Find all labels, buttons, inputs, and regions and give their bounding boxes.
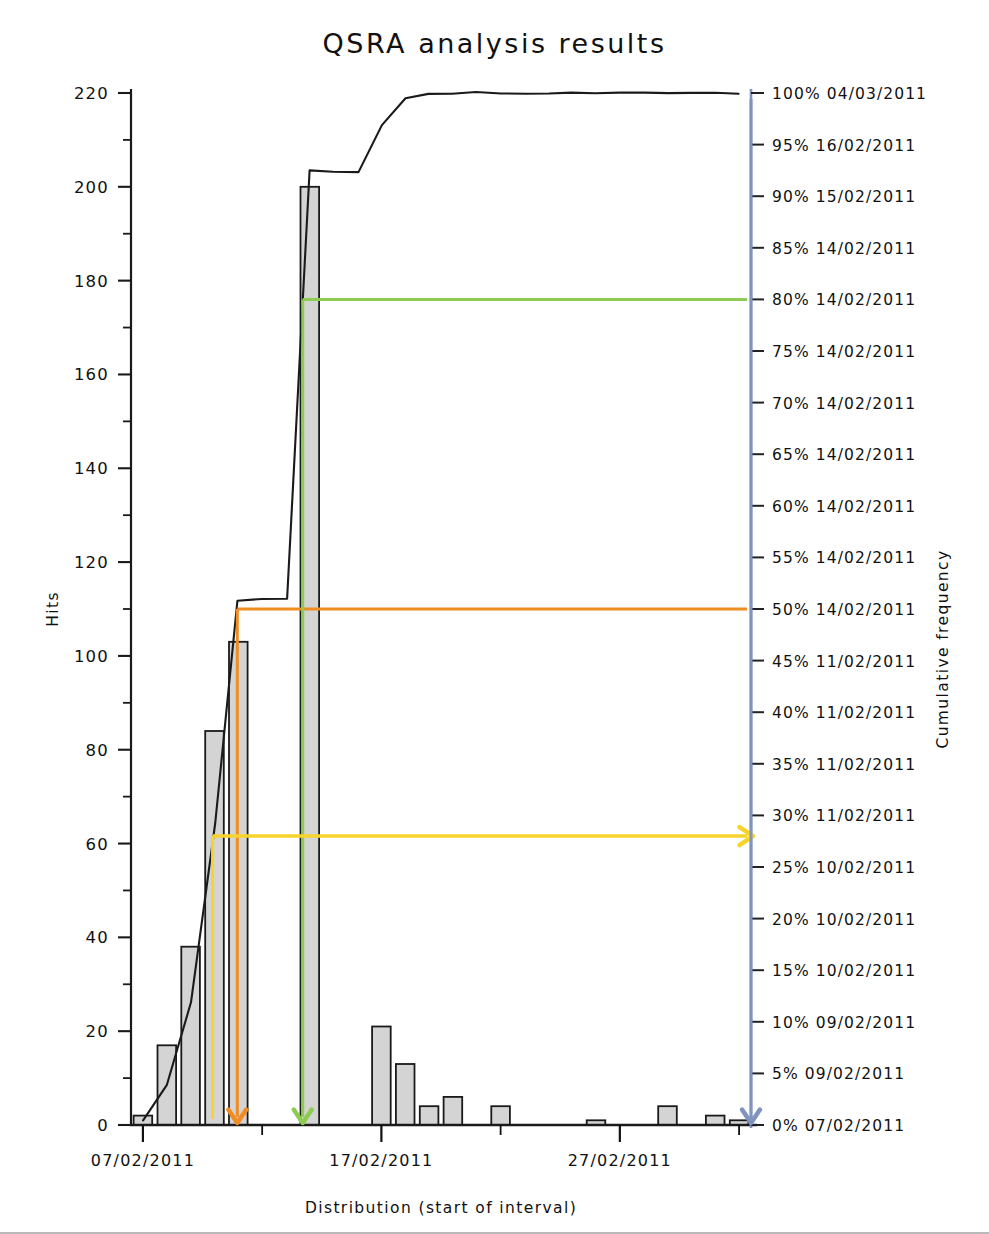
histogram-bar [205,731,224,1125]
y-tick-label: 60 [86,835,109,854]
y2-tick-label: 85% 14/02/2011 [772,240,916,258]
y2-tick-label: 5% 09/02/2011 [772,1065,905,1083]
y2-axis-title: Cumulative frequency [934,549,952,748]
y2-tick-label: 20% 10/02/2011 [772,911,916,929]
annotation-p80-marker [303,299,747,1117]
y2-tick-label: 65% 14/02/2011 [772,446,916,464]
y-tick-label: 140 [74,459,109,478]
y2-tick-label: 50% 14/02/2011 [772,601,916,619]
y2-tick-label: 0% 07/02/2011 [772,1117,905,1135]
y-tick-label: 220 [74,84,109,103]
qsra-chart: 020406080100120140160180200220Hits0% 07/… [0,0,989,1234]
y2-tick-label: 75% 14/02/2011 [772,343,916,361]
histogram-bar [372,1027,391,1126]
y-axis-title: Hits [44,591,62,627]
chart-page: QSRA analysis results 020406080100120140… [0,0,989,1234]
y2-tick-label: 80% 14/02/2011 [772,291,916,309]
y2-tick-label: 10% 09/02/2011 [772,1014,916,1032]
histogram-bar [420,1106,439,1125]
y2-tick-label: 15% 10/02/2011 [772,962,916,980]
y-tick-label: 0 [97,1116,109,1135]
y2-tick-label: 100% 04/03/2011 [772,85,927,103]
y2-tick-label: 35% 11/02/2011 [772,756,916,774]
y2-tick-label: 95% 16/02/2011 [772,137,916,155]
histogram-bar [658,1106,677,1125]
y-tick-label: 180 [74,272,109,291]
y-tick-label: 200 [74,178,109,197]
histogram-bar [491,1106,510,1125]
x-tick-label: 27/02/2011 [568,1151,672,1170]
annotation-p28-marker [213,836,747,1119]
y2-tick-label: 40% 11/02/2011 [772,704,916,722]
y2-tick-label: 30% 11/02/2011 [772,807,916,825]
y-tick-label: 100 [74,647,109,666]
y-tick-label: 80 [86,741,109,760]
histogram-bar [706,1116,725,1125]
y2-tick-label: 25% 10/02/2011 [772,859,916,877]
y-tick-label: 40 [86,928,109,947]
y-tick-label: 160 [74,365,109,384]
y2-tick-label: 70% 14/02/2011 [772,395,916,413]
bars-group [134,187,749,1125]
histogram-bar [396,1064,415,1125]
y2-tick-label: 60% 14/02/2011 [772,498,916,516]
y2-tick-label: 55% 14/02/2011 [772,549,916,567]
x-tick-label: 17/02/2011 [329,1151,433,1170]
histogram-bar [181,947,200,1125]
y-tick-label: 120 [74,553,109,572]
y-tick-label: 20 [86,1022,109,1041]
histogram-bar [444,1097,463,1125]
x-axis-title: Distribution (start of interval) [305,1199,577,1217]
y2-tick-label: 45% 11/02/2011 [772,653,916,671]
y2-tick-label: 90% 15/02/2011 [772,188,916,206]
x-tick-label: 07/02/2011 [91,1151,195,1170]
